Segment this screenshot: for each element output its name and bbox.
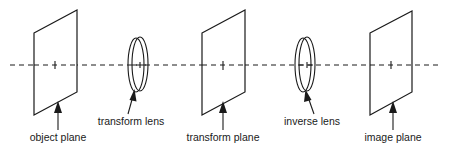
image-plane: image plane (364, 11, 421, 143)
inverse-lens-label: inverse lens (284, 115, 340, 127)
transform-lens: transform lens (98, 37, 165, 127)
object-plane-label: object plane (30, 131, 87, 143)
transform-plane: transform plane (187, 10, 260, 143)
image-plane-label: image plane (364, 131, 421, 143)
transform-plane-label: transform plane (187, 131, 260, 143)
inverse-lens: inverse lens (284, 37, 340, 127)
transform-lens-label: transform lens (98, 115, 165, 127)
optical-setup-diagram: object plane transform lens transform pl… (0, 0, 450, 150)
object-plane: object plane (30, 10, 87, 143)
